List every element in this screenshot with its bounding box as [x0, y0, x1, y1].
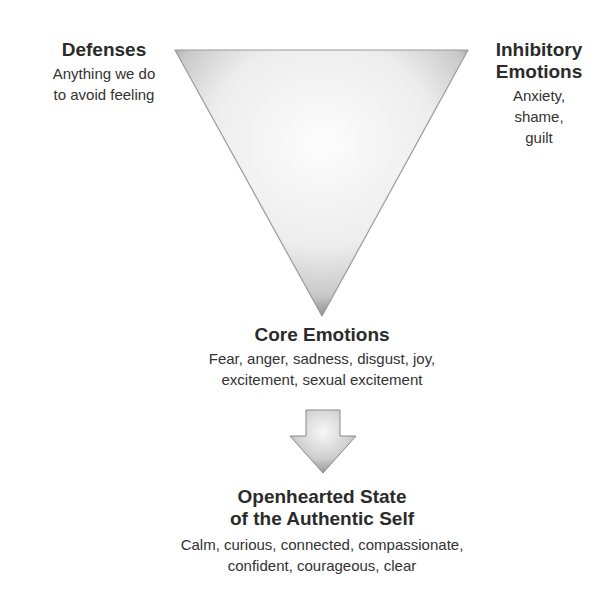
down-arrow-icon — [290, 410, 356, 473]
authentic-self-line-1: Calm, curious, connected, compassionate, — [117, 534, 527, 555]
defenses-title: Defenses — [20, 39, 188, 61]
inverted-triangle — [175, 50, 468, 316]
authentic-self-title-line-1: Openhearted State — [117, 486, 527, 508]
core-emotions-label: Core Emotions Fear, anger, sadness, disg… — [147, 324, 497, 390]
authentic-self-line-2: confident, courageous, clear — [117, 555, 527, 576]
inhibitory-title-line-1: Inhibitory — [470, 39, 608, 61]
core-emotions-title: Core Emotions — [147, 324, 497, 346]
inhibitory-emotions-label: Inhibitory Emotions Anxiety, shame, guil… — [470, 39, 608, 148]
inhibitory-desc-line-1: Anxiety, — [470, 85, 608, 106]
defenses-desc-line-1: Anything we do — [20, 63, 188, 84]
defenses-label: Defenses Anything we do to avoid feeling — [20, 39, 188, 105]
authentic-self-title-line-2: of the Authentic Self — [117, 508, 527, 530]
authentic-self-label: Openhearted State of the Authentic Self … — [117, 486, 527, 576]
inhibitory-title-line-2: Emotions — [470, 61, 608, 83]
inhibitory-desc-line-3: guilt — [470, 127, 608, 148]
core-emotions-line-1: Fear, anger, sadness, disgust, joy, — [147, 348, 497, 369]
inhibitory-desc-line-2: shame, — [470, 106, 608, 127]
defenses-desc-line-2: to avoid feeling — [20, 84, 188, 105]
core-emotions-line-2: excitement, sexual excitement — [147, 369, 497, 390]
